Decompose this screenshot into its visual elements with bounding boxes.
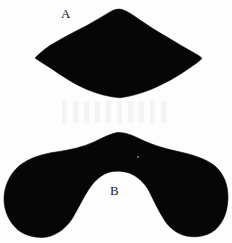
panel-label-b: B: [110, 184, 119, 197]
speck-artifact-icon: [137, 156, 139, 158]
silhouette-shapes-svg: [0, 0, 232, 243]
figure-panel-container: A B: [0, 0, 232, 243]
panel-label-a: A: [61, 7, 71, 20]
